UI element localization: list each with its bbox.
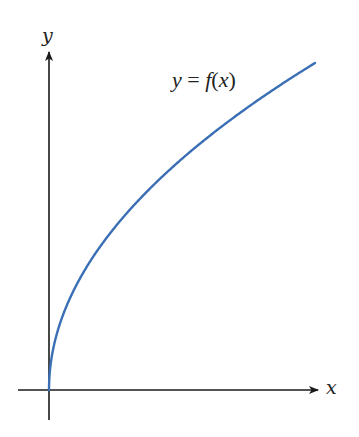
- annotation-equals: =: [182, 67, 205, 92]
- annotation-x: x: [218, 67, 229, 92]
- x-axis-label: x: [326, 376, 337, 398]
- annotation-paren-open: (: [211, 67, 218, 92]
- annotation-y: y: [170, 67, 182, 92]
- annotation-paren-close: ): [228, 67, 235, 92]
- function-annotation: y = f(x): [170, 67, 236, 92]
- function-plot: y x y = f(x): [0, 0, 359, 437]
- y-axis-label: y: [41, 24, 53, 46]
- function-curve: [49, 63, 315, 390]
